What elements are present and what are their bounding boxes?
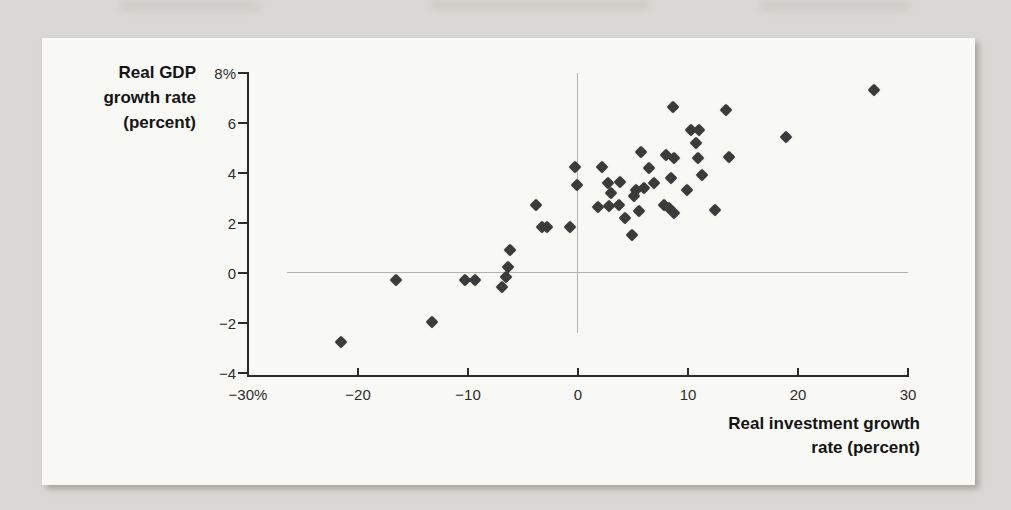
y-axis-title: Real GDP growth rate (percent) xyxy=(40,60,196,135)
zero-line-vertical xyxy=(577,73,578,333)
zero-line-horizontal xyxy=(287,272,908,273)
data-point xyxy=(564,221,577,234)
data-point xyxy=(568,161,581,174)
data-point xyxy=(708,203,721,216)
scan-artifact xyxy=(120,2,260,10)
data-point xyxy=(693,123,706,136)
y-axis-line xyxy=(247,72,249,377)
y-axis-title-line: growth rate xyxy=(40,85,196,110)
data-point xyxy=(389,273,402,286)
y-axis-title-line: Real GDP xyxy=(40,60,196,85)
x-axis-title: Real investment growth rate (percent) xyxy=(700,412,920,460)
data-point xyxy=(666,101,679,114)
x-axis-title-line: rate (percent) xyxy=(700,436,920,460)
page: Real GDP growth rate (percent) Real inve… xyxy=(0,0,1011,510)
y-tick-label: 6 xyxy=(196,115,236,132)
data-point xyxy=(596,161,609,174)
x-tick-label: −30% xyxy=(229,386,268,403)
x-tick-mark xyxy=(577,368,579,375)
x-tick-mark xyxy=(467,368,469,375)
data-point xyxy=(722,151,735,164)
y-tick-mark xyxy=(238,122,247,124)
data-point xyxy=(504,243,517,256)
x-tick-mark xyxy=(907,368,909,375)
data-point xyxy=(334,336,347,349)
data-point xyxy=(692,152,705,165)
y-tick-mark xyxy=(238,372,247,374)
data-point xyxy=(634,146,647,159)
y-tick-mark xyxy=(238,322,247,324)
data-point xyxy=(614,176,627,189)
x-axis-line xyxy=(247,375,909,377)
data-point xyxy=(619,212,632,225)
x-tick-label: −10 xyxy=(455,386,480,403)
data-point xyxy=(719,103,732,116)
data-point xyxy=(632,204,645,217)
y-tick-mark xyxy=(238,172,247,174)
y-tick-label: −4 xyxy=(196,365,236,382)
y-tick-mark xyxy=(238,72,247,74)
data-point xyxy=(642,162,655,175)
data-point xyxy=(664,172,677,185)
y-axis-title-line: (percent) xyxy=(40,110,196,135)
y-tick-label: 0 xyxy=(196,265,236,282)
x-tick-label: 10 xyxy=(680,386,697,403)
data-point xyxy=(689,137,702,150)
data-point xyxy=(530,198,543,211)
y-tick-mark xyxy=(238,222,247,224)
data-point xyxy=(468,273,481,286)
data-point xyxy=(780,131,793,144)
data-point xyxy=(868,83,881,96)
y-tick-label: 4 xyxy=(196,165,236,182)
data-point xyxy=(425,316,438,329)
figure-panel: Real GDP growth rate (percent) Real inve… xyxy=(42,38,975,485)
data-point xyxy=(592,201,605,214)
x-tick-label: −20 xyxy=(345,386,370,403)
scan-artifact xyxy=(430,0,650,9)
x-tick-mark xyxy=(357,368,359,375)
y-tick-label: 8% xyxy=(196,65,236,82)
scan-artifact xyxy=(760,2,910,10)
data-point xyxy=(696,168,709,181)
x-axis-title-line: Real investment growth xyxy=(700,412,920,436)
x-tick-label: 30 xyxy=(900,386,917,403)
x-tick-label: 0 xyxy=(574,386,582,403)
x-tick-mark xyxy=(797,368,799,375)
y-tick-mark xyxy=(238,272,247,274)
y-tick-label: −2 xyxy=(196,315,236,332)
data-point xyxy=(613,198,626,211)
x-tick-mark xyxy=(687,368,689,375)
x-tick-mark xyxy=(247,368,249,375)
x-tick-label: 20 xyxy=(790,386,807,403)
data-point xyxy=(571,178,584,191)
data-point xyxy=(681,183,694,196)
y-tick-label: 2 xyxy=(196,215,236,232)
data-point xyxy=(626,228,639,241)
